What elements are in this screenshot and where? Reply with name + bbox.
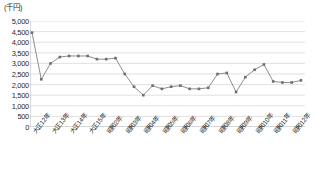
y-axis-tick-label: 5,000	[12, 17, 29, 26]
y-axis-tick-label: 4,500	[12, 27, 29, 36]
data-point-marker	[170, 85, 173, 88]
y-axis-tick-label: 2,000	[12, 80, 29, 89]
data-point-marker	[235, 91, 238, 94]
data-point-marker	[281, 81, 284, 84]
data-point-marker	[216, 73, 219, 76]
data-point-marker	[161, 88, 164, 91]
data-point-marker	[31, 31, 34, 34]
data-point-marker	[151, 84, 154, 87]
data-point-marker	[40, 78, 43, 81]
data-point-marker	[68, 55, 71, 58]
data-point-marker	[290, 81, 293, 84]
y-axis-tick-label: 1,000	[12, 101, 29, 110]
y-axis-tick-label: 2,500	[12, 70, 29, 79]
data-point-marker	[253, 68, 256, 71]
line-chart: (千円) 05001,0001,5002,0002,5003,0003,5004…	[0, 0, 325, 171]
data-point-marker	[272, 80, 275, 83]
y-axis-tick-label: 3,000	[12, 59, 29, 68]
y-axis-tick-label: 1,500	[12, 91, 29, 100]
y-axis-tick-label: 3,500	[12, 48, 29, 57]
data-point-marker	[77, 55, 80, 58]
data-point-marker	[263, 63, 266, 66]
data-point-marker	[142, 94, 145, 97]
data-point-marker	[86, 55, 89, 58]
y-axis-tick-label: 500	[17, 112, 29, 121]
data-series-markers	[31, 31, 303, 96]
data-point-marker	[179, 84, 182, 87]
y-axis-tick-label: 4,000	[12, 38, 29, 47]
data-point-marker	[59, 56, 62, 59]
plot-svg	[30, 21, 305, 127]
x-axis-tick-labels: 大正12年大正13年大正14年大正15年昭和2年昭和3年昭和4年昭和5年昭和6年…	[0, 128, 325, 171]
data-point-marker	[96, 58, 99, 61]
data-point-marker	[188, 88, 191, 91]
plot-area	[30, 21, 305, 127]
data-point-marker	[225, 72, 228, 75]
data-point-marker	[300, 79, 303, 82]
data-point-marker	[49, 62, 52, 65]
data-point-marker	[123, 73, 126, 76]
data-point-marker	[198, 88, 201, 91]
data-point-marker	[207, 86, 210, 89]
data-point-marker	[244, 76, 247, 79]
data-point-marker	[114, 57, 117, 60]
data-point-marker	[105, 58, 108, 61]
gridlines	[30, 21, 305, 127]
data-point-marker	[133, 85, 136, 88]
